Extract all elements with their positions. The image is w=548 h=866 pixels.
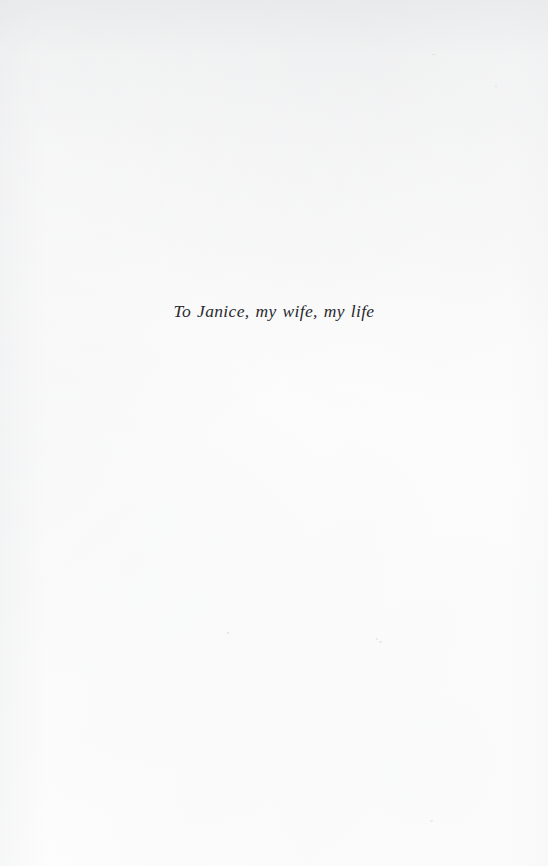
dedication-block: To Janice, my wife, my life [0, 301, 548, 323]
paper-texture-overlay [0, 0, 548, 866]
scan-speck [379, 641, 382, 643]
scan-speck [432, 54, 436, 55]
dedication-text: To Janice, my wife, my life [174, 301, 375, 323]
scan-speck [430, 820, 433, 822]
book-page: To Janice, my wife, my life [0, 0, 548, 866]
scan-speck [495, 85, 497, 87]
scan-speck [376, 638, 378, 640]
scan-speck [227, 632, 229, 634]
